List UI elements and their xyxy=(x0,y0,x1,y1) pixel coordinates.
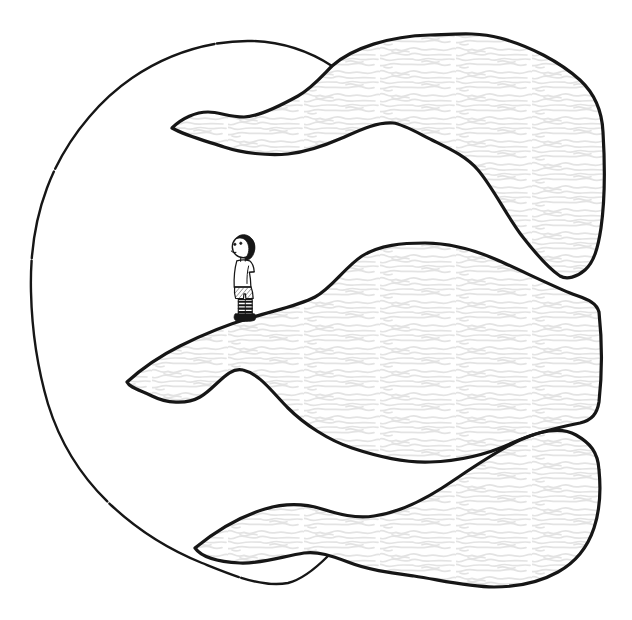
middle-wave-path xyxy=(127,243,601,462)
middle-wave: middle flowing gust that the boy stands … xyxy=(127,243,601,462)
boy-shirt xyxy=(234,260,254,287)
illustration-canvas: Hand-drawn black ink illustration on whi… xyxy=(0,0,632,620)
boy-shoes xyxy=(234,314,256,322)
boy-shorts xyxy=(234,287,253,299)
illustration-svg: large open rounded ink outline upper flo… xyxy=(0,0,632,620)
boy-figure: small boy standing and facing left xyxy=(231,235,255,322)
boy-eye-left xyxy=(234,243,236,245)
boy-eye-right xyxy=(240,242,242,244)
